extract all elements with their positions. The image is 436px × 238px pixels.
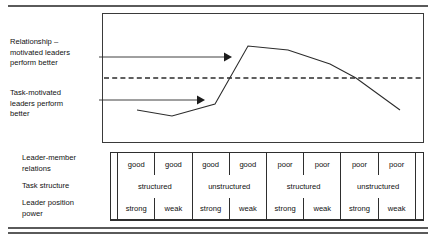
cell-relations-1: good	[118, 153, 155, 176]
row-end-spacer-cell	[415, 198, 423, 221]
cell-power-7: strong	[341, 198, 378, 221]
row-label-leader-member-relations: Leader-member relations	[20, 153, 111, 176]
figure-container: Relationship – motivated leaders perform…	[0, 0, 436, 238]
row-label-leader-position-power: Leader position power	[20, 198, 111, 221]
cell-relations-7: poor	[341, 153, 378, 176]
cell-relations-3: good	[192, 153, 229, 176]
cell-relations-6: poor	[304, 153, 341, 176]
cell-power-4: weak	[229, 198, 266, 221]
annotation-task-motivated: Task-motivated leaders perform better	[10, 88, 102, 120]
row-label-task-structure: Task structure	[20, 175, 111, 198]
cell-power-5: strong	[266, 198, 303, 221]
cell-structure-3: structured	[266, 175, 340, 198]
cell-structure-2: unstructured	[192, 175, 266, 198]
table-row: Leader position power strong weak strong…	[20, 198, 424, 221]
row-spacer-cell	[111, 175, 118, 198]
annotation-relationship-motivated: Relationship – motivated leaders perform…	[10, 37, 102, 69]
bottom-divider-rule-primary	[8, 227, 428, 229]
bottom-divider-rule-secondary	[8, 232, 428, 234]
table-row: Leader-member relations good good good g…	[20, 153, 424, 176]
cell-structure-1: structured	[118, 175, 192, 198]
contingency-table: Leader-member relations good good good g…	[20, 152, 424, 220]
row-end-spacer-cell	[415, 175, 423, 198]
cell-power-2: weak	[155, 198, 192, 221]
cell-power-3: strong	[192, 198, 229, 221]
cell-structure-4: unstructured	[341, 175, 415, 198]
cell-relations-4: good	[229, 153, 266, 176]
top-divider-rule	[8, 5, 428, 7]
cell-power-1: strong	[118, 198, 155, 221]
chart-plot-frame	[102, 13, 424, 143]
cell-power-6: weak	[304, 198, 341, 221]
cell-relations-2: good	[155, 153, 192, 176]
table-row: Task structure structured unstructured s…	[20, 175, 424, 198]
row-spacer-cell	[111, 153, 118, 176]
row-end-spacer-cell	[415, 153, 423, 176]
row-spacer-cell	[111, 198, 118, 221]
cell-power-8: weak	[378, 198, 415, 221]
cell-relations-5: poor	[266, 153, 303, 176]
table-grid: Leader-member relations good good good g…	[20, 152, 424, 221]
cell-relations-8: poor	[378, 153, 415, 176]
